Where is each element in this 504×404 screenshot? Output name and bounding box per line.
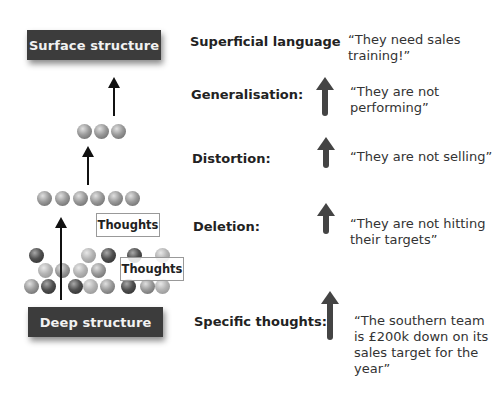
thought-ball [55,263,70,278]
thought-ball [125,191,140,206]
thought-ball [41,279,56,294]
level-quote-specific-thoughts: “The southern team is £200k down on its … [354,313,488,377]
thought-ball [111,124,126,139]
thought-ball [29,248,44,263]
thoughts-label-2: Thoughts [120,257,184,281]
thought-ball [24,279,39,294]
thought-ball [140,279,155,294]
level-quote-generalisation: “They are not performing” [350,84,439,116]
thought-ball [37,191,52,206]
thought-ball [90,191,105,206]
thought-ball [73,263,88,278]
thought-ball [101,248,116,263]
level-quote-superficial-language: “They need sales training!” [348,32,460,64]
thought-ball [100,279,115,294]
thought-ball [73,191,88,206]
level-label-specific-thoughts: Specific thoughts: [194,314,327,329]
level-label-distortion: Distortion: [192,151,271,166]
thought-ball [155,279,170,294]
thought-ball [68,279,83,294]
up-arrow-icon [60,226,62,300]
thought-ball [77,124,92,139]
thought-ball [91,263,106,278]
level-label-generalisation: Generalisation: [191,87,303,102]
up-arrow-icon [113,86,115,116]
thought-ball [81,248,96,263]
thought-ball [94,124,109,139]
thoughts-label-1: Thoughts [96,213,160,237]
level-quote-deletion: “They are not hitting their targets” [350,216,485,248]
up-arrow-icon [323,214,329,234]
level-label-deletion: Deletion: [193,219,260,234]
thought-ball [121,279,136,294]
thought-ball [108,191,123,206]
thought-ball [55,191,70,206]
up-arrow-icon [87,155,89,185]
up-arrow-icon [323,148,329,168]
thought-ball [38,263,53,278]
up-arrow-icon [322,88,328,116]
deep-structure-box: Deep structure [28,307,163,337]
thought-ball [83,279,98,294]
surface-structure-box: Surface structure [27,30,161,60]
up-arrow-icon [327,302,333,340]
level-label-superficial-language: Superficial language [190,34,341,49]
level-quote-distortion: “They are not selling” [350,149,492,165]
